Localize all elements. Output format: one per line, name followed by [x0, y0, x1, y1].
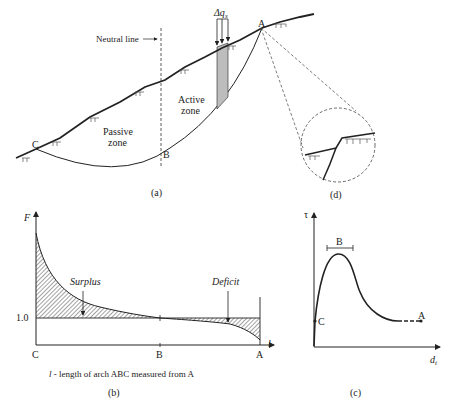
point-c-label-c: C	[318, 316, 325, 327]
panel-c-stress-displacement: B C A τ dt (c)	[304, 209, 440, 399]
panel-d-caption: (d)	[330, 189, 342, 201]
slice-delta-qs	[217, 43, 228, 109]
delta-qs-load-arrows	[217, 19, 228, 45]
x-axis-label-l: l	[268, 338, 271, 349]
panel-d-detail: (d)	[261, 28, 375, 201]
passive-zone-label-1: Passive	[103, 126, 134, 137]
panel-b-factor-chart: F l 1.0 C B A Surplus Deficit l - length…	[16, 212, 274, 399]
x-tick-c: C	[32, 349, 39, 360]
panel-b-caption: (b)	[108, 387, 120, 399]
panel-c-caption: (c)	[350, 387, 361, 399]
tau-curve	[314, 254, 398, 346]
panel-a-caption: (a)	[151, 187, 162, 199]
point-b-label-c: B	[336, 236, 343, 247]
y-axis-label-tau: τ	[304, 209, 308, 220]
point-c-label: C	[32, 139, 39, 150]
surplus-label: Surplus	[70, 276, 101, 287]
soil-hatch-marks	[22, 24, 286, 162]
x-tick-a: A	[256, 349, 264, 360]
active-zone-label-1: Active	[178, 94, 205, 105]
point-a-label-c: A	[418, 310, 426, 321]
x-axis-label-dt: dt	[430, 354, 438, 367]
deficit-label: Deficit	[211, 276, 239, 287]
length-note: l - length of arch ABC measured from A	[49, 369, 194, 379]
point-a-label: A	[258, 18, 266, 29]
figure-canvas: Δqs Neutral line Active zone Passive zon…	[0, 0, 454, 412]
x-tick-b: B	[156, 349, 163, 360]
passive-zone-label-2: zone	[108, 137, 127, 148]
panel-a-slope-diagram: Δqs Neutral line Active zone Passive zon…	[16, 7, 314, 199]
neutral-line-label: Neutral line	[96, 34, 139, 44]
y-axis-label-f: F	[23, 212, 31, 223]
active-zone-label-2: zone	[181, 105, 200, 116]
point-b-label: B	[163, 149, 170, 160]
y-tick-1-0: 1.0	[16, 312, 29, 323]
delta-qs-label: Δqs	[213, 7, 228, 20]
point-c-marker	[313, 319, 316, 322]
detail-scarp	[305, 148, 336, 180]
